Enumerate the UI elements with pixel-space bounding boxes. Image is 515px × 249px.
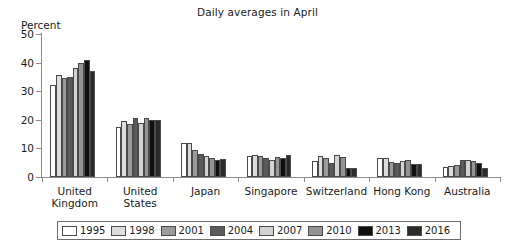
legend-label: 2004	[228, 225, 253, 236]
bar-group	[42, 34, 107, 177]
bar	[351, 168, 357, 177]
legend-swatch-icon	[62, 226, 77, 236]
legend-label: 2010	[326, 225, 351, 236]
bar-group	[435, 34, 500, 177]
y-tick-mark	[36, 63, 41, 64]
legend-item-1998[interactable]: 1998	[111, 225, 160, 236]
legend-swatch-icon	[210, 226, 225, 236]
legend-item-1995[interactable]: 1995	[62, 225, 111, 236]
bar	[155, 120, 161, 177]
legend-item-2013[interactable]: 2013	[358, 225, 407, 236]
bar-group	[107, 34, 172, 177]
legend-label: 2016	[425, 225, 450, 236]
legend-label: 1998	[129, 225, 154, 236]
y-tick-mark	[36, 177, 41, 178]
bar	[482, 168, 488, 177]
chart-legend: 19951998200120042007201020132016	[57, 221, 461, 240]
y-tick-label: 30	[14, 85, 34, 97]
bar-chart: Daily averages in April Percent 01020304…	[0, 0, 515, 249]
bar	[220, 159, 226, 177]
y-tick-label: 0	[14, 171, 34, 183]
legend-swatch-icon	[259, 226, 274, 236]
legend-swatch-icon	[358, 226, 373, 236]
bar	[286, 155, 292, 177]
x-tick-mark	[304, 178, 305, 182]
x-tick-mark	[435, 178, 436, 182]
bar	[90, 71, 96, 177]
category-label: Australia	[427, 186, 507, 198]
y-tick-mark	[36, 148, 41, 149]
legend-swatch-icon	[111, 226, 126, 236]
plot-area	[42, 34, 500, 177]
legend-swatch-icon	[308, 226, 323, 236]
legend-swatch-icon	[161, 226, 176, 236]
x-axis-line	[41, 177, 501, 178]
x-tick-mark	[173, 178, 174, 182]
legend-label: 2001	[179, 225, 204, 236]
y-tick-label: 50	[14, 28, 34, 40]
y-tick-label: 40	[14, 57, 34, 69]
y-tick-mark	[36, 120, 41, 121]
chart-title: Daily averages in April	[0, 6, 515, 18]
bar-group	[238, 34, 303, 177]
x-tick-mark	[238, 178, 239, 182]
y-tick-label: 10	[14, 142, 34, 154]
legend-item-2001[interactable]: 2001	[161, 225, 210, 236]
legend-item-2016[interactable]: 2016	[407, 225, 456, 236]
legend-label: 1995	[80, 225, 105, 236]
y-tick-mark	[36, 91, 41, 92]
legend-item-2004[interactable]: 2004	[210, 225, 259, 236]
bar-group	[304, 34, 369, 177]
bar-group	[369, 34, 434, 177]
x-tick-mark	[500, 178, 501, 182]
x-tick-mark	[369, 178, 370, 182]
legend-item-2010[interactable]: 2010	[308, 225, 357, 236]
x-tick-mark	[107, 178, 108, 182]
y-tick-mark	[36, 34, 41, 35]
legend-label: 2013	[376, 225, 401, 236]
legend-label: 2007	[277, 225, 302, 236]
legend-swatch-icon	[407, 226, 422, 236]
y-tick-label: 20	[14, 114, 34, 126]
bar-group	[173, 34, 238, 177]
legend-item-2007[interactable]: 2007	[259, 225, 308, 236]
x-tick-mark	[42, 178, 43, 182]
bar	[417, 164, 423, 177]
